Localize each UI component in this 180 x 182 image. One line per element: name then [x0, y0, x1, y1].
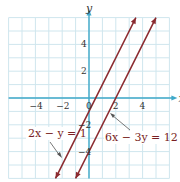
- x-tick-label: 2: [113, 101, 119, 111]
- x-tick-label: −4: [29, 101, 43, 111]
- pointer: [112, 115, 130, 130]
- x-tick-label: −2: [56, 101, 69, 111]
- y-tick-label: 4: [81, 39, 87, 49]
- graph: xy−4−202442−2−42x − y = 16x − 3y = 12: [0, 0, 180, 182]
- x-tick-label: 0: [86, 101, 92, 111]
- equation-label-2: 6x − 3y = 12: [105, 131, 178, 144]
- y-tick-label: −4: [78, 147, 92, 157]
- y-axis-label: y: [85, 2, 93, 15]
- y-tick-label: 2: [81, 66, 87, 76]
- axes: [9, 10, 178, 179]
- x-tick-label: 4: [140, 101, 146, 111]
- x-axis-label: x: [178, 92, 180, 105]
- x-axis-arrow-icon: [171, 96, 177, 101]
- equation-label-1: 2x − y = 1: [28, 127, 87, 140]
